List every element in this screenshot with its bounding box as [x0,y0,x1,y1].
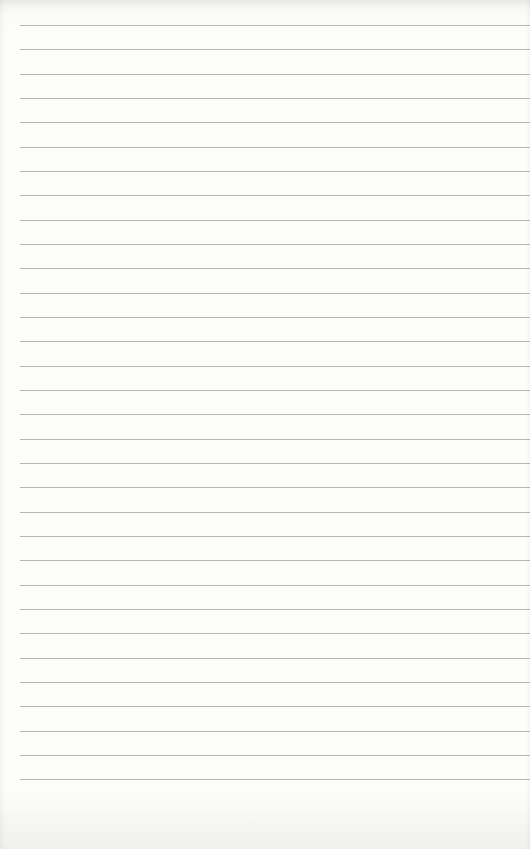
ruled-line [20,220,530,221]
ruled-line [20,536,530,537]
ruled-line [20,195,530,196]
ruled-line [20,293,530,294]
ruled-line [20,633,530,634]
ruled-line [20,755,530,756]
ruled-line [20,122,530,123]
ruled-line [20,268,530,269]
ruled-line [20,171,530,172]
ruled-line [20,317,530,318]
ruled-line [20,147,530,148]
ruled-line [20,25,530,26]
ruled-line [20,439,530,440]
ruled-line [20,609,530,610]
ruled-line [20,74,530,75]
ruled-line [20,49,530,50]
ruled-line [20,463,530,464]
ruled-line [20,98,530,99]
ruled-line [20,487,530,488]
ruled-line [20,706,530,707]
ruled-line [20,390,530,391]
paper-edge-shadow [526,0,530,849]
ruled-line [20,244,530,245]
ruled-line [20,366,530,367]
ruled-line [20,560,530,561]
ruled-line [20,779,530,780]
ruled-line [20,682,530,683]
lined-paper-sheet [0,0,530,849]
ruled-line [20,512,530,513]
ruled-line [20,731,530,732]
ruled-line [20,658,530,659]
ruled-line [20,341,530,342]
ruled-line [20,585,530,586]
ruled-line [20,414,530,415]
